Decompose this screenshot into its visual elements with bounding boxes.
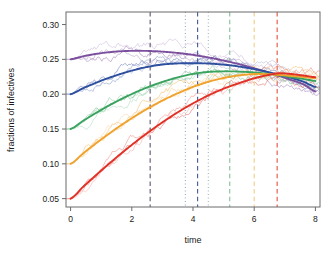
x-tick-label: 8 bbox=[313, 214, 318, 224]
chart-figure: 02468 0.050.100.150.200.250.30 time frac… bbox=[0, 0, 333, 257]
y-tick-label: 0.15 bbox=[42, 124, 59, 134]
x-tick-label: 6 bbox=[252, 214, 257, 224]
y-tick-label: 0.10 bbox=[42, 159, 59, 169]
x-axis-title: time bbox=[184, 235, 201, 245]
chart-canvas: 02468 0.050.100.150.200.250.30 time frac… bbox=[0, 0, 333, 257]
x-tick-label: 4 bbox=[191, 214, 196, 224]
y-tick-label: 0.05 bbox=[42, 194, 59, 204]
y-tick-label: 0.25 bbox=[42, 54, 59, 64]
x-tick-label: 2 bbox=[129, 214, 134, 224]
y-tick-label: 0.20 bbox=[42, 89, 59, 99]
y-tick-label: 0.30 bbox=[42, 20, 59, 30]
y-axis-title: fractions of infectives bbox=[6, 67, 16, 152]
x-tick-label: 0 bbox=[68, 214, 73, 224]
